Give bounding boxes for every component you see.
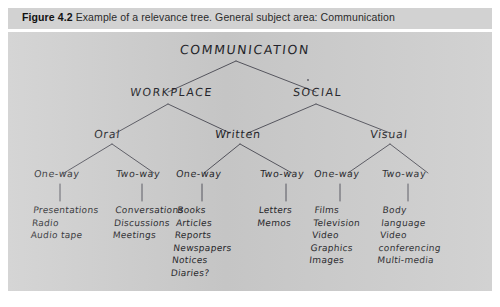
leaf-item: Diaries? bbox=[170, 267, 230, 280]
tree-node-written: Written bbox=[214, 128, 261, 141]
tree-node-workplace: WORKPLACE bbox=[129, 86, 213, 99]
leaf-item: Notices bbox=[171, 254, 231, 267]
leaf-item: Body bbox=[382, 204, 445, 217]
tree-node-oral: Oral bbox=[93, 128, 121, 141]
leaf-item: Conversations bbox=[115, 204, 184, 217]
leaf-list-oral-two-way: Conversations Discussions Meetings bbox=[112, 204, 184, 242]
leaf-item: Television bbox=[313, 217, 361, 230]
leaf-item: Audio tape bbox=[30, 229, 96, 242]
relevance-tree-diagram: COMMUNICATION WORKPLACE SOCIAL Oral Writ… bbox=[8, 32, 492, 291]
figure-caption-body: Example of a relevance tree. General sub… bbox=[76, 11, 395, 23]
tree-node-visual-one-way: One-way bbox=[313, 168, 360, 179]
leaf-list-oral-one-way: Presentations Radio Audio tape bbox=[30, 204, 99, 242]
tree-node-visual-two-way: Two-way bbox=[381, 168, 426, 179]
tree-node-written-one-way: One-way bbox=[175, 168, 222, 179]
figure-caption-bar: Figure 4.2 Example of a relevance tree. … bbox=[8, 8, 492, 29]
leaf-item: Memos bbox=[257, 217, 292, 230]
leaf-item: Video bbox=[311, 229, 359, 242]
tree-node-written-two-way: Two-way bbox=[259, 168, 304, 179]
leaf-list-written-one-way: Books Articles Reports Newspapers Notice… bbox=[170, 204, 236, 280]
leaf-item: Articles bbox=[175, 217, 235, 230]
tree-node-oral-one-way: One-way bbox=[33, 168, 80, 179]
leaf-item: Films bbox=[314, 204, 362, 217]
leaf-item: Video bbox=[379, 229, 442, 242]
leaf-item: Letters bbox=[258, 204, 293, 217]
tree-node-oral-two-way: Two-way bbox=[115, 168, 160, 179]
leaf-item: Books bbox=[177, 204, 237, 217]
figure-number: Figure 4.2 bbox=[22, 11, 73, 23]
leaf-item: conferencing bbox=[378, 242, 441, 255]
stray-ink-dot bbox=[307, 79, 309, 81]
leaf-item: Reports bbox=[174, 229, 234, 242]
leaf-item: Multi-media bbox=[377, 254, 440, 267]
leaf-item: Images bbox=[309, 254, 357, 267]
leaf-item: Newspapers bbox=[173, 242, 233, 255]
figure-caption: Figure 4.2 Example of a relevance tree. … bbox=[22, 11, 395, 23]
tree-node-visual: Visual bbox=[369, 128, 408, 141]
tree-node-social: SOCIAL bbox=[292, 86, 343, 99]
leaf-list-visual-one-way: Films Television Video Graphics Images bbox=[309, 204, 362, 267]
leaf-item: Discussions bbox=[113, 217, 182, 230]
leaf-item: Presentations bbox=[33, 204, 99, 217]
leaf-item: Graphics bbox=[310, 242, 358, 255]
leaf-list-written-two-way: Letters Memos bbox=[257, 204, 293, 229]
leaf-list-visual-two-way: Body language Video conferencing Multi-m… bbox=[377, 204, 446, 267]
leaf-item: Radio bbox=[31, 217, 97, 230]
leaf-item: language bbox=[381, 217, 444, 230]
leaf-item: Meetings bbox=[112, 229, 181, 242]
figure-container: Figure 4.2 Example of a relevance tree. … bbox=[8, 8, 492, 291]
tree-node-communication: COMMUNICATION bbox=[179, 42, 311, 57]
